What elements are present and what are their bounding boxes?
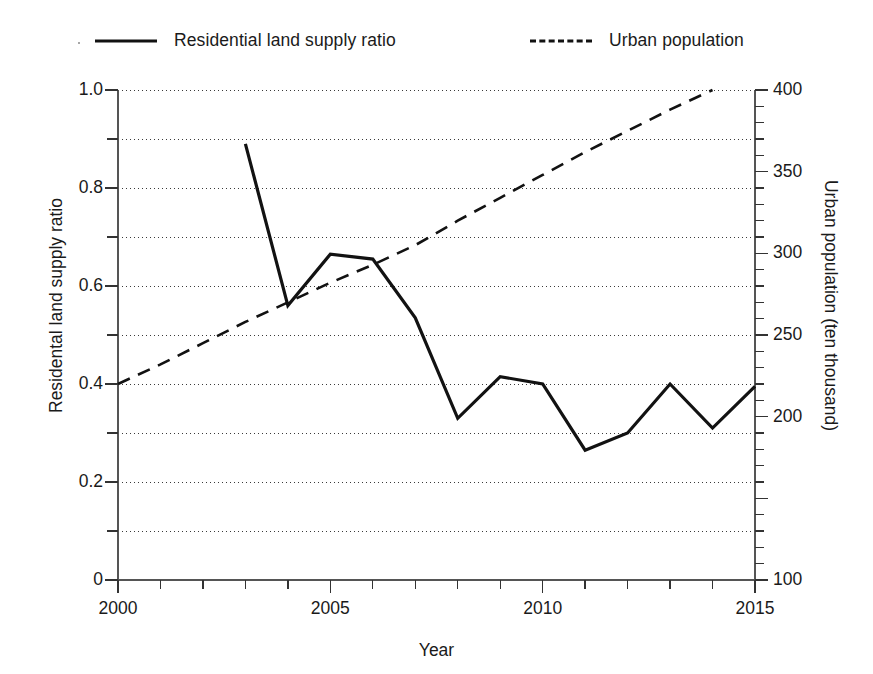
y-axis-left-title: Residental land supply ratio — [46, 156, 67, 456]
x-tick-label: 2005 — [290, 598, 370, 619]
series-line-urban-population — [118, 90, 713, 384]
y-tick-label-left: 1.0 — [43, 79, 103, 100]
data-series — [118, 90, 755, 450]
plot-area — [0, 0, 873, 674]
chart-figure: Residential land supply ratio Urban popu… — [0, 0, 873, 674]
y-tick-label-left: 0 — [43, 569, 103, 590]
x-tick-label: 2010 — [503, 598, 583, 619]
y-axis-right-title: Urban population (ten thousand) — [820, 156, 841, 456]
series-line-residential-land-supply-ratio — [245, 144, 755, 450]
y-tick-label-right: 400 — [773, 79, 833, 100]
axis-frame — [118, 90, 755, 580]
y-tick-label-left: 0.2 — [43, 471, 103, 492]
gridlines — [118, 90, 755, 580]
y-tick-label-right: 100 — [773, 569, 833, 590]
x-tick-label: 2015 — [715, 598, 795, 619]
x-tick-label: 2000 — [78, 598, 158, 619]
x-axis-title: Year — [0, 640, 873, 661]
